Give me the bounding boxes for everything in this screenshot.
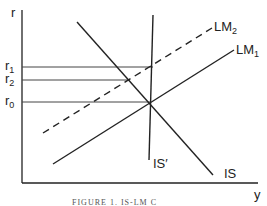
lm2-label: LM2 [214,19,237,36]
y-axis-label: r [11,5,16,20]
is-label: IS [224,166,237,181]
lm1-label: LM1 [236,42,259,59]
r0-label: r0 [5,93,14,110]
is-prime-curve [149,15,153,160]
x-axis-label: y [254,187,261,202]
figure-caption: FIGURE 1. IS-LM C [72,198,157,206]
is-prime-label: IS′ [153,156,168,171]
is-lm-diagram: r y r1 r2 r0 LM2 LM1 IS IS′ FIGURE 1. IS… [0,0,267,206]
